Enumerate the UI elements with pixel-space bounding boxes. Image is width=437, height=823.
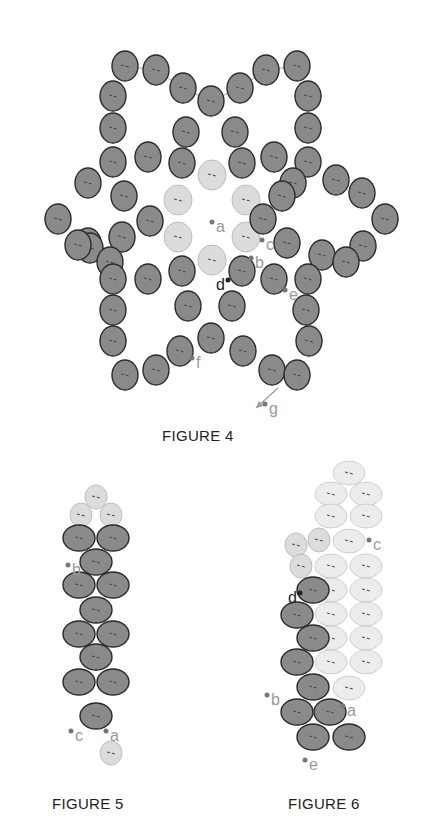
dark-bead bbox=[100, 147, 126, 177]
point-label-e: e bbox=[289, 286, 298, 303]
figure-4-caption: FIGURE 4 bbox=[162, 427, 234, 444]
dark-bead bbox=[284, 51, 310, 81]
dark-bead bbox=[97, 525, 129, 551]
pale-bead bbox=[315, 554, 347, 578]
light-bead bbox=[198, 160, 226, 190]
dark-bead bbox=[80, 703, 112, 729]
beading-diagram-canvas: abcdefgbcacdbae bbox=[0, 0, 437, 823]
pale-bead bbox=[350, 578, 382, 602]
thread-point-dot bbox=[303, 758, 308, 763]
pale-bead bbox=[315, 650, 347, 674]
light-bead bbox=[198, 245, 226, 275]
dark-bead bbox=[135, 142, 161, 172]
dark-bead bbox=[259, 355, 285, 385]
dark-bead bbox=[45, 204, 71, 234]
thread-point-dot bbox=[265, 693, 270, 698]
dark-bead bbox=[284, 360, 310, 390]
dark-bead bbox=[261, 142, 287, 172]
dark-bead bbox=[80, 644, 112, 670]
figure-6: cdbae bbox=[265, 461, 383, 773]
figure-5-caption: FIGURE 5 bbox=[52, 795, 124, 812]
light-bead bbox=[285, 533, 307, 557]
dark-bead bbox=[372, 204, 398, 234]
light-bead bbox=[164, 222, 192, 252]
dark-bead bbox=[173, 117, 199, 147]
dark-bead bbox=[227, 73, 253, 103]
dark-bead bbox=[253, 55, 279, 85]
dark-bead bbox=[269, 181, 295, 211]
dark-bead bbox=[175, 291, 201, 321]
dark-bead bbox=[323, 165, 349, 195]
pale-bead bbox=[315, 602, 347, 626]
dark-bead bbox=[229, 148, 255, 178]
point-label-a: a bbox=[216, 218, 225, 235]
dark-bead bbox=[295, 264, 321, 294]
dark-bead bbox=[143, 55, 169, 85]
dark-bead bbox=[112, 51, 138, 81]
dark-bead bbox=[349, 178, 375, 208]
light-bead bbox=[308, 528, 330, 552]
dark-bead bbox=[97, 669, 129, 695]
dark-bead bbox=[295, 81, 321, 111]
dark-bead bbox=[297, 625, 329, 651]
thread-point-dot bbox=[367, 538, 372, 543]
dark-bead bbox=[63, 525, 95, 551]
point-label-b: b bbox=[72, 561, 81, 578]
dark-bead bbox=[97, 572, 129, 598]
dark-bead bbox=[222, 117, 248, 147]
thread-point-dot bbox=[104, 729, 109, 734]
point-label-c: c bbox=[75, 727, 83, 744]
thread-point-dot bbox=[298, 591, 303, 596]
dark-bead bbox=[100, 295, 126, 325]
figure-6-caption: FIGURE 6 bbox=[288, 795, 360, 812]
dark-bead bbox=[100, 326, 126, 356]
point-label-b: b bbox=[255, 254, 264, 271]
thread-point-dot bbox=[283, 288, 288, 293]
dark-bead bbox=[295, 113, 321, 143]
light-bead bbox=[164, 185, 192, 215]
thread-point-dot bbox=[226, 278, 231, 283]
light-bead bbox=[70, 503, 92, 527]
pale-bead bbox=[333, 529, 365, 553]
dark-bead bbox=[111, 181, 137, 211]
pale-bead bbox=[350, 504, 382, 528]
pale-bead bbox=[350, 602, 382, 626]
light-bead bbox=[100, 741, 122, 765]
thread-point-dot bbox=[210, 220, 215, 225]
thread-point-dot bbox=[190, 356, 195, 361]
dark-bead bbox=[333, 724, 365, 750]
dark-bead bbox=[100, 113, 126, 143]
pale-bead bbox=[333, 676, 365, 700]
pale-bead bbox=[350, 650, 382, 674]
thread-point-dot bbox=[249, 256, 254, 261]
figure-5: bca bbox=[63, 485, 129, 765]
dark-bead bbox=[63, 669, 95, 695]
dark-bead bbox=[169, 256, 195, 286]
point-label-b: b bbox=[271, 691, 280, 708]
dark-bead bbox=[169, 148, 195, 178]
dark-bead bbox=[97, 621, 129, 647]
point-label-c: c bbox=[266, 236, 274, 253]
dark-bead bbox=[297, 674, 329, 700]
dark-bead bbox=[281, 699, 313, 725]
point-label-a: a bbox=[110, 727, 119, 744]
point-label-e: e bbox=[309, 756, 318, 773]
pale-bead bbox=[333, 461, 365, 485]
dark-bead bbox=[281, 649, 313, 675]
point-label-c: c bbox=[373, 536, 381, 553]
figure-4: abcdefg bbox=[45, 51, 398, 417]
dark-bead bbox=[230, 336, 256, 366]
dark-bead bbox=[297, 577, 329, 603]
dark-bead bbox=[198, 323, 224, 353]
dark-bead bbox=[297, 724, 329, 750]
dark-bead bbox=[250, 204, 276, 234]
dark-bead bbox=[63, 621, 95, 647]
light-bead bbox=[290, 554, 312, 578]
dark-bead bbox=[281, 602, 313, 628]
dark-bead bbox=[198, 86, 224, 116]
thread-point-dot bbox=[69, 729, 74, 734]
dark-bead bbox=[296, 326, 322, 356]
dark-bead bbox=[143, 355, 169, 385]
dark-bead bbox=[167, 336, 193, 366]
pale-bead bbox=[350, 482, 382, 506]
